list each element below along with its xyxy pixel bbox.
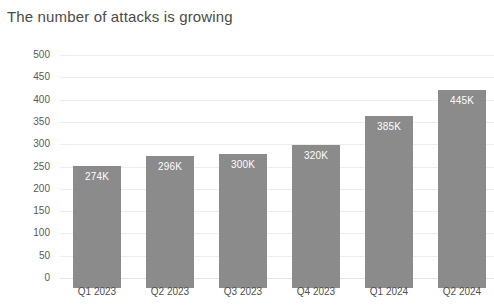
gridline xyxy=(60,144,494,145)
y-axis-tick-label: 200 xyxy=(33,184,50,194)
y-axis-tick-label: 100 xyxy=(33,228,50,238)
bar[interactable]: 445K xyxy=(438,90,486,288)
bar[interactable]: 300K xyxy=(219,154,267,288)
plot-area: 274K296K300K320K385K445K xyxy=(60,50,494,283)
gridline xyxy=(60,100,494,101)
chart-title: The number of attacks is growing xyxy=(7,7,233,27)
bar-value-label: 296K xyxy=(146,161,194,172)
y-axis-tick-label: 450 xyxy=(33,72,50,82)
bar-group[interactable]: 274K xyxy=(73,166,121,288)
gridline xyxy=(60,122,494,123)
bar-value-label: 385K xyxy=(365,121,413,132)
gridline xyxy=(60,167,494,168)
bar-group[interactable]: 300K xyxy=(219,154,267,288)
bar-value-label: 274K xyxy=(73,171,121,182)
bar-value-label: 320K xyxy=(292,150,340,161)
y-axis-tick-label: 50 xyxy=(39,251,50,261)
y-axis-tick-label: 350 xyxy=(33,117,50,127)
bar[interactable]: 320K xyxy=(292,145,340,288)
y-axis-tick-label: 300 xyxy=(33,139,50,149)
y-axis: 500450400350300250200150100500 xyxy=(0,48,56,288)
bar-value-label: 300K xyxy=(219,159,267,170)
gridline xyxy=(60,233,494,234)
bar-group[interactable]: 296K xyxy=(146,156,194,288)
gridline xyxy=(60,77,494,78)
y-axis-tick-label: 500 xyxy=(33,50,50,60)
bar[interactable]: 385K xyxy=(365,116,413,288)
bar-chart-figure: The number of attacks is growing 5004504… xyxy=(0,0,494,305)
bar[interactable]: 296K xyxy=(146,156,194,288)
y-axis-tick-label: 400 xyxy=(33,95,50,105)
gridline xyxy=(60,55,494,56)
bar[interactable]: 274K xyxy=(73,166,121,288)
y-axis-tick-label: 150 xyxy=(33,206,50,216)
bar-group[interactable]: 320K xyxy=(292,145,340,288)
bar-value-label: 445K xyxy=(438,95,486,106)
bar-group[interactable]: 385K xyxy=(365,116,413,288)
gridline xyxy=(60,189,494,190)
gridline xyxy=(60,211,494,212)
y-axis-tick-label: 250 xyxy=(33,162,50,172)
bar-group[interactable]: 445K xyxy=(438,90,486,288)
gridline xyxy=(60,256,494,257)
gridline xyxy=(60,278,494,279)
y-axis-tick-label: 0 xyxy=(44,273,50,283)
